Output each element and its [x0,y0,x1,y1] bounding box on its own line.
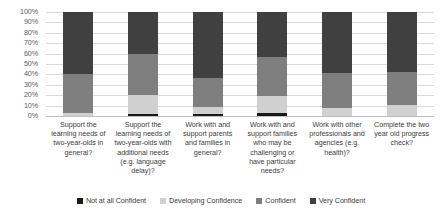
bar-group[interactable] [257,12,287,116]
stacked-bar[interactable] [387,12,417,116]
bar-segment[interactable] [193,12,223,78]
stacked-bar[interactable] [128,12,158,116]
bar-segment[interactable] [128,114,158,116]
legend-swatch-icon [77,198,83,204]
y-axis-tick-label: 30% [24,81,38,89]
x-axis-category-label: Complete the two year old progress check… [371,120,432,148]
bar-group[interactable] [63,12,93,116]
bar-group[interactable] [387,12,417,116]
x-axis-category-label: Support the learning needs of two-year-o… [48,120,109,157]
bar-group[interactable] [322,12,352,116]
y-axis-tick-label: 70% [24,39,38,47]
legend-item[interactable]: Confident [256,196,295,205]
x-axis-category-label: Support the learning needs of two-year-o… [113,120,174,175]
stacked-bar-chart: 100%90%80%70%60%50%40%30%20%10%0% Suppor… [0,0,442,218]
x-axis-category-label: Work with and support parents and famili… [177,120,238,157]
bar-segment[interactable] [387,12,417,72]
legend-item[interactable]: Not at all Confident [77,196,146,205]
legend-swatch-icon [160,198,166,204]
legend-swatch-icon [310,198,316,204]
bar-group[interactable] [128,12,158,116]
bar-segment[interactable] [128,12,158,54]
bar-segment[interactable] [322,73,352,107]
bar-segment[interactable] [257,96,287,113]
legend-swatch-icon [256,198,262,204]
y-axis-tick-label: 40% [24,70,38,78]
bar-segment[interactable] [193,107,223,114]
bar-segment[interactable] [63,12,93,74]
bar-segment[interactable] [128,95,158,114]
bar-segment[interactable] [63,113,93,116]
bar-segment[interactable] [193,78,223,107]
bar-segment[interactable] [257,57,287,97]
x-axis-category-label: Work with and support families who may b… [242,120,303,175]
y-axis-tick-label: 10% [24,102,38,110]
bar-segment[interactable] [387,105,417,116]
legend-label: Developing Confidence [169,196,242,205]
bar-segment[interactable] [257,113,287,116]
bar-segment[interactable] [63,74,93,112]
legend-item[interactable]: Very Confident [310,196,365,205]
x-axis-category-labels: Support the learning needs of two-year-o… [46,120,434,192]
legend-label: Confident [265,196,295,205]
y-axis-tick-label: 80% [24,29,38,37]
y-axis: 100%90%80%70%60%50%40%30%20%10%0% [0,12,44,116]
stacked-bar[interactable] [322,12,352,116]
bar-segment[interactable] [257,12,287,57]
bar-segment[interactable] [322,12,352,73]
plot-area [46,12,434,116]
y-axis-tick-label: 60% [24,50,38,58]
legend-label: Not at all Confident [86,196,146,205]
bar-group[interactable] [193,12,223,116]
y-axis-tick-label: 20% [24,91,38,99]
legend-item[interactable]: Developing Confidence [160,196,242,205]
y-axis-tick-label: 50% [24,60,38,68]
bar-segment[interactable] [387,72,417,104]
y-axis-tick-label: 90% [24,18,38,26]
bar-segment[interactable] [193,114,223,116]
bars-container [46,12,434,116]
bar-segment[interactable] [128,54,158,96]
chart-legend: Not at all ConfidentDeveloping Confidenc… [0,196,442,205]
stacked-bar[interactable] [193,12,223,116]
y-axis-tick-label: 100% [20,8,38,16]
stacked-bar[interactable] [257,12,287,116]
x-axis-category-label: Work with other professionals and agenci… [307,120,368,157]
bar-segment[interactable] [322,108,352,116]
gridline [46,116,434,117]
y-axis-tick-label: 0% [28,112,38,120]
legend-label: Very Confident [319,196,365,205]
stacked-bar[interactable] [63,12,93,116]
